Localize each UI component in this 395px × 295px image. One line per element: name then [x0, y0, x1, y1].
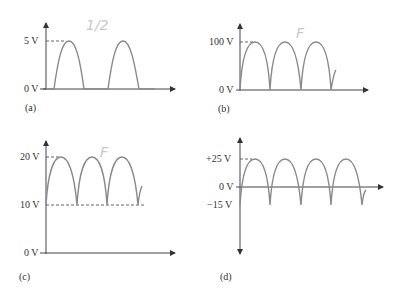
y-tick-label: 0 V: [219, 181, 234, 192]
y-tick-label: +25 V: [206, 153, 232, 164]
panel-caption: (a): [25, 102, 36, 114]
handwritten-annotation: F: [100, 144, 109, 160]
panel-caption: (d): [220, 271, 232, 283]
waveform: [240, 42, 336, 90]
y-tick-label: 10 V: [20, 199, 40, 210]
handwritten-annotation: F: [296, 25, 305, 41]
y-tick-label: 0 V: [24, 247, 39, 258]
y-tick-label: −15 V: [207, 199, 233, 210]
y-tick-label: 5 V: [24, 35, 39, 46]
y-tick-label: 0 V: [24, 83, 39, 94]
handwritten-annotation: 1/2: [86, 17, 109, 33]
panel-c: 20 V 10 V 0 V (c) F: [19, 141, 175, 283]
waveform: [46, 41, 155, 89]
waveform: [46, 157, 142, 205]
panel-d: +25 V 0 V −15 V (d): [206, 138, 383, 283]
panel-b: 100 V 0 V (b) F: [209, 24, 368, 115]
panel-a: 5 V 0 V (a) 1/2: [24, 17, 175, 114]
y-tick-label: 0 V: [219, 84, 234, 95]
panel-caption: (b): [218, 103, 230, 115]
panel-caption: (c): [19, 271, 30, 283]
waveform: [240, 159, 366, 205]
y-tick-label: 100 V: [209, 36, 234, 47]
y-tick-label: 20 V: [20, 151, 40, 162]
